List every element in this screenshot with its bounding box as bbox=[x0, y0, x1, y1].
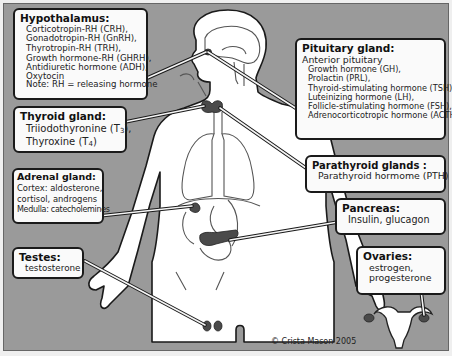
ovaries-label: Ovaries: estrogen, progesterone bbox=[356, 246, 446, 295]
thyroid-hormone-text: Triiodothyronine (T bbox=[26, 123, 120, 134]
thyroid-hormone-suffix: ) bbox=[93, 136, 97, 147]
parathyroid-label: Parathyroid glands : Parathyroid hormome… bbox=[305, 155, 446, 193]
thyroid-title: Thyroid gland: bbox=[20, 111, 120, 123]
testis-right bbox=[214, 321, 222, 331]
ovary-left bbox=[364, 314, 374, 322]
adrenal-hormone: Medulla: catecholemines bbox=[17, 205, 99, 216]
pituitary-hormone: Adrenocorticotropic hormone (ACTH) bbox=[302, 111, 439, 120]
thyroid-hormone-text: Thyroxine (T bbox=[26, 136, 88, 147]
pancreas-hormone: Insulin, glucagon bbox=[342, 215, 439, 226]
pituitary-label: Pituitary gland: Anterior pituitary Grow… bbox=[295, 38, 446, 140]
thyroid-hormone-suffix: ), bbox=[124, 123, 131, 134]
ovaries-hormone: progesterone bbox=[363, 273, 439, 284]
parathyroid-hormone: Parathyroid hormome (PTH) bbox=[312, 171, 439, 182]
thyroid-hormone: Thyroxine (T4) bbox=[20, 136, 120, 149]
adrenal-hormone: cortisol, androgens bbox=[17, 194, 99, 205]
pituitary-title: Pituitary gland: bbox=[302, 43, 439, 55]
pancreas-label: Pancreas: Insulin, glucagon bbox=[335, 198, 446, 235]
testes-label: Testes: testosterone bbox=[12, 247, 84, 279]
adrenal-title: Adrenal gland: bbox=[17, 172, 99, 183]
endocrine-diagram: Hypothalamus: Corticotropin-RH (CRH), Go… bbox=[0, 0, 452, 356]
hypothalamus-title: Hypothalamus: bbox=[20, 13, 141, 25]
testes-title: Testes: bbox=[19, 252, 77, 264]
copyright-credit: © Crista Mason 2005 bbox=[271, 337, 356, 346]
pancreas-title: Pancreas: bbox=[342, 203, 439, 215]
ovaries-title: Ovaries: bbox=[363, 251, 439, 263]
hypothalamus-note: Note: RH = releasing hormone bbox=[20, 80, 141, 90]
hypothalamus-label: Hypothalamus: Corticotropin-RH (CRH), Go… bbox=[13, 8, 148, 100]
thyroid-hormone: Triiodothyronine (T3), bbox=[20, 123, 120, 136]
thyroid-label: Thyroid gland: Triiodothyronine (T3), Th… bbox=[13, 106, 127, 153]
adrenal-hormone: Cortex: aldosterone, bbox=[17, 183, 99, 194]
testes-hormone: testosterone bbox=[19, 264, 77, 274]
adrenal-label: Adrenal gland: Cortex: aldosterone, cort… bbox=[12, 168, 104, 224]
